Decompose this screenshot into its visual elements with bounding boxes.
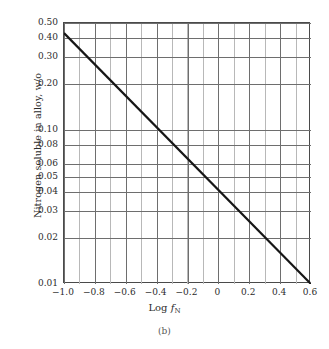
x-axis-title: Log fN — [0, 302, 329, 315]
x-tick-label: 0 — [215, 287, 221, 297]
x-tick-label: −0.6 — [114, 287, 136, 297]
x-tick-label: −0.8 — [83, 287, 105, 297]
x-tick-label: 0.4 — [272, 287, 286, 297]
x-tick-label-group: −1.0−0.8−0.6−0.4−0.200.20.40.6 — [0, 0, 329, 349]
x-tick-label: −1.0 — [52, 287, 74, 297]
x-tick-label: −0.2 — [176, 287, 198, 297]
x-axis-title-subscript: N — [174, 307, 180, 315]
x-tick-label: 0.6 — [303, 287, 317, 297]
figure-container: Nitrogen soluble in alloy, w/o 0.500.400… — [0, 0, 329, 349]
x-tick-label: 0.2 — [241, 287, 255, 297]
figure-caption: (b) — [0, 326, 329, 336]
x-axis-title-prefix: Log — [148, 302, 170, 313]
x-tick-label: −0.4 — [145, 287, 167, 297]
